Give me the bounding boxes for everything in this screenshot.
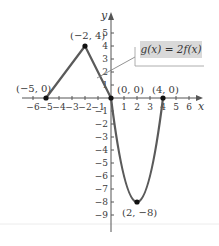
point-label: (4, 0) [152, 84, 179, 95]
equation-label: g(x) = 2f(x) [141, 43, 202, 55]
point-marker [82, 43, 87, 48]
x-tick-label: 1 [121, 102, 127, 112]
x-tick-label: −2 [78, 102, 91, 112]
y-tick-label: −8 [95, 197, 109, 207]
y-tick-label: −2 [95, 119, 108, 129]
x-tick-label: 2 [134, 102, 140, 112]
y-tick-label: −5 [95, 158, 109, 168]
y-tick-label: −3 [95, 132, 109, 142]
function-graph: −6 −5 −4 −3 −2 −1 1 2 3 4 5 6 x [0, 0, 219, 246]
point-label: (2, −8) [122, 207, 157, 218]
y-tick-label: −4 [95, 145, 109, 155]
y-tick-label: 4 [102, 41, 108, 51]
x-tick-label: 6 [186, 102, 192, 112]
y-tick-label: 3 [102, 54, 108, 64]
y-axis-label: y [100, 9, 108, 22]
point-label: (0, 0) [117, 84, 144, 95]
point-marker [108, 95, 113, 100]
point-marker [43, 95, 48, 100]
x-tick-label: −3 [65, 102, 79, 112]
y-axis: 5 4 3 2 1 −1 −2 −3 −4 −5 −6 −7 −8 −9 y [95, 9, 114, 232]
x-tick-label: −4 [52, 102, 66, 112]
y-tick-label: −1 [95, 106, 108, 116]
x-tick-label: −5 [39, 102, 53, 112]
y-axis-arrow-icon [108, 12, 114, 20]
point-label: (−2, 4) [70, 30, 105, 41]
y-tick-label: −7 [95, 184, 109, 194]
y-tick-label: −6 [95, 171, 109, 181]
x-tick-label: −6 [26, 102, 40, 112]
x-tick-label: 5 [173, 102, 179, 112]
point-label: (−5, 0) [16, 83, 51, 94]
x-tick-label: 3 [147, 102, 153, 112]
x-axis-label: x [198, 100, 205, 113]
y-tick-label: −9 [95, 210, 109, 220]
point-marker [134, 199, 139, 204]
point-marker [160, 95, 165, 100]
